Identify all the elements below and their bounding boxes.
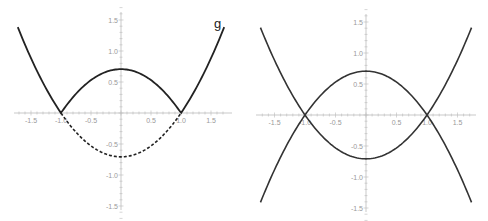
right-axes: -1.5-1.0-0.50.51.01.51.51.00.5-0.5-1.0-1… <box>256 10 476 221</box>
y-tick-label: 0.5 <box>108 79 118 86</box>
y-tick-label: -1.0 <box>351 174 363 181</box>
y-tick-label: 1.5 <box>353 19 363 26</box>
left-axes: -1.5-1.0-0.50.51.01.51.51.00.5-0.5-1.0-1… <box>14 8 232 219</box>
curve-label-g: g <box>214 16 221 31</box>
y-tick-label: -1.5 <box>106 203 118 210</box>
y-tick-label: -1.5 <box>351 205 363 212</box>
x-tick-label: 0.5 <box>146 117 156 124</box>
x-tick-label: 0.5 <box>392 119 402 126</box>
left-plot-canvas: -1.5-1.0-0.50.51.01.51.51.00.5-0.5-1.0-1… <box>0 0 244 221</box>
x-tick-label: -0.5 <box>85 117 97 124</box>
x-tick-label: 1.5 <box>206 117 216 124</box>
right-plot-canvas: -1.5-1.0-0.50.51.01.51.51.00.5-0.5-1.0-1… <box>244 0 488 221</box>
y-tick-label: 1.0 <box>353 50 363 57</box>
y-tick-label: 1.0 <box>108 48 118 55</box>
right-plot: -1.5-1.0-0.50.51.01.51.51.00.5-0.5-1.0-1… <box>244 0 488 221</box>
y-tick-label: -0.5 <box>106 141 118 148</box>
y-tick-label: -1.0 <box>106 172 118 179</box>
x-tick-label: -1.5 <box>268 119 280 126</box>
x-tick-label: -1.5 <box>25 117 37 124</box>
x-tick-label: 1.0 <box>176 117 186 124</box>
y-tick-label: -0.5 <box>351 143 363 150</box>
x-tick-label: -0.5 <box>329 119 341 126</box>
x-tick-label: 1.5 <box>453 119 463 126</box>
y-tick-label: 1.5 <box>108 17 118 24</box>
y-tick-label: 0.5 <box>353 81 363 88</box>
left-plot: -1.5-1.0-0.50.51.01.51.51.00.5-0.5-1.0-1… <box>0 0 244 221</box>
